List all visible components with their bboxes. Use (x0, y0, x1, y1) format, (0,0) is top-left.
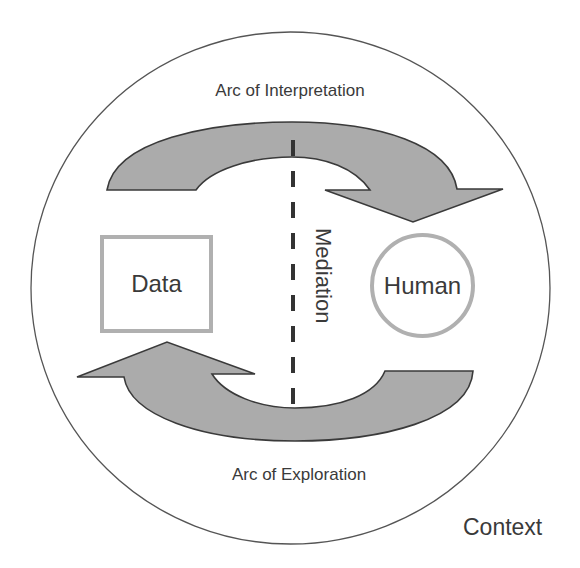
mediation-label: Mediation (312, 228, 334, 323)
arc-of-exploration-label: Arc of Exploration (0, 466, 580, 483)
arc-of-interpretation-arrow (107, 122, 503, 222)
human-node: Human (370, 233, 475, 338)
data-node-label: Data (131, 270, 182, 298)
context-label: Context (463, 516, 542, 539)
arc-of-exploration-arrow (77, 342, 473, 441)
arc-of-interpretation-label: Arc of Interpretation (0, 82, 580, 99)
human-node-label: Human (384, 272, 461, 300)
data-node: Data (100, 235, 213, 333)
